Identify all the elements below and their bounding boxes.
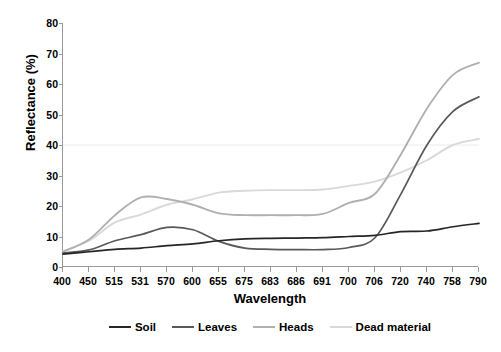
x-tick-mark (88, 267, 89, 272)
plot-canvas (63, 23, 479, 267)
legend-item-dead-material[interactable]: Dead material (330, 321, 431, 333)
legend-swatch-icon (109, 326, 131, 328)
x-tick-mark (62, 267, 63, 272)
y-tick-mark (59, 206, 63, 207)
x-tick-mark (270, 267, 271, 272)
plot-area (62, 23, 478, 267)
x-tick-mark (478, 267, 479, 272)
x-tick-mark (426, 267, 427, 272)
legend-label: Leaves (198, 321, 237, 333)
legend-item-heads[interactable]: Heads (253, 321, 314, 333)
x-tick-mark (452, 267, 453, 272)
legend-swatch-icon (172, 326, 194, 328)
y-tick-mark (59, 23, 63, 24)
y-tick-label: 20 (46, 201, 58, 211)
x-axis-title: Wavelength (62, 291, 478, 306)
x-tick-mark (400, 267, 401, 272)
x-axis-tick-labels: 4004505155315706006556756836866917007067… (62, 275, 478, 291)
chart-legend: SoilLeavesHeadsDead material (62, 318, 478, 336)
y-tick-label: 10 (46, 232, 58, 242)
x-axis-ticks (62, 267, 478, 273)
y-tick-label: 80 (46, 18, 58, 28)
legend-label: Heads (279, 321, 314, 333)
y-tick-mark (59, 237, 63, 238)
y-axis-tick-labels: 01020304050607080 (30, 0, 58, 352)
legend-label: Soil (135, 321, 156, 333)
x-tick-mark (166, 267, 167, 272)
y-tick-label: 60 (46, 79, 58, 89)
reflectance-chart: Reflectance (%) 01020304050607080 400450… (0, 0, 501, 352)
y-tick-mark (59, 84, 63, 85)
x-tick-mark (218, 267, 219, 272)
x-tick-label: 790 (458, 275, 498, 287)
x-tick-mark (348, 267, 349, 272)
y-tick-mark (59, 54, 63, 55)
y-tick-mark (59, 145, 63, 146)
x-tick-mark (192, 267, 193, 272)
y-tick-mark (59, 115, 63, 116)
x-tick-mark (322, 267, 323, 272)
legend-label: Dead material (356, 321, 431, 333)
legend-swatch-icon (330, 326, 352, 328)
series-lines (63, 63, 479, 255)
x-tick-mark (244, 267, 245, 272)
series-line-leaves (63, 97, 479, 253)
y-tick-label: 50 (46, 110, 58, 120)
y-tick-label: 40 (46, 140, 58, 150)
x-tick-mark (140, 267, 141, 272)
series-line-heads (63, 63, 479, 252)
x-tick-mark (296, 267, 297, 272)
legend-item-leaves[interactable]: Leaves (172, 321, 237, 333)
y-tick-label: 70 (46, 49, 58, 59)
y-tick-mark (59, 176, 63, 177)
legend-swatch-icon (253, 326, 275, 328)
legend-item-soil[interactable]: Soil (109, 321, 156, 333)
x-tick-mark (114, 267, 115, 272)
x-tick-mark (374, 267, 375, 272)
y-tick-label: 0 (52, 262, 58, 272)
series-line-dead-material (63, 139, 479, 251)
y-tick-label: 30 (46, 171, 58, 181)
